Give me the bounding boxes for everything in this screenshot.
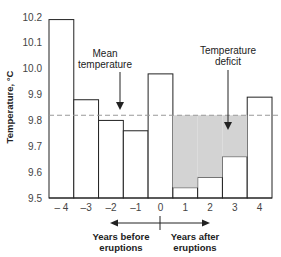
x-tick-label: 0 — [158, 202, 164, 213]
x-tick-label: 3 — [232, 202, 238, 213]
mean-arrowhead-icon — [116, 102, 124, 110]
bar — [198, 177, 223, 198]
bar — [123, 131, 148, 198]
bar — [148, 74, 173, 198]
bar — [49, 20, 74, 198]
deficit-segment — [173, 115, 198, 187]
x-tick-label: – 4 — [54, 202, 68, 213]
bar — [99, 120, 124, 198]
y-tick-label: 9.8 — [28, 115, 42, 126]
right-arrowhead-icon — [202, 220, 210, 227]
x-tick-label: –2 — [105, 202, 117, 213]
y-axis-label: Temperature, °C — [4, 70, 15, 143]
x-tick-label: 4 — [257, 202, 263, 213]
temperature-bar-chart: 10.210.110.09.99.89.79.69.5 – 4–3–2–1012… — [0, 0, 281, 257]
x-tick-label: –1 — [130, 202, 142, 213]
x-tick-label: 1 — [182, 202, 188, 213]
y-tick-label: 10.2 — [23, 12, 43, 23]
y-tick-label: 9.9 — [28, 89, 42, 100]
mean-label: Meantemperature — [78, 48, 132, 70]
bar — [247, 97, 272, 198]
years-before-label: Years beforeeruptions — [92, 231, 149, 253]
deficit-segment — [198, 115, 223, 177]
y-tick-label: 9.5 — [28, 193, 42, 204]
bar — [74, 100, 99, 198]
left-arrowhead-icon — [110, 220, 118, 227]
y-tick-label: 10.1 — [23, 37, 43, 48]
x-tick-label: –3 — [81, 202, 93, 213]
bar — [222, 157, 247, 198]
x-tick-labels: – 4–3–2–101234 — [54, 202, 262, 213]
years-after-label: Years aftereruptions — [171, 231, 220, 253]
deficit-segment — [222, 115, 247, 156]
y-tick-label: 9.7 — [28, 141, 42, 152]
deficit-label: Temperaturedeficit — [200, 45, 257, 67]
y-tick-label: 10.0 — [23, 63, 43, 74]
x-tick-label: 2 — [207, 202, 213, 213]
y-tick-label: 9.6 — [28, 167, 42, 178]
y-tick-labels: 10.210.110.09.99.89.79.69.5 — [23, 12, 43, 204]
bar — [173, 188, 198, 198]
